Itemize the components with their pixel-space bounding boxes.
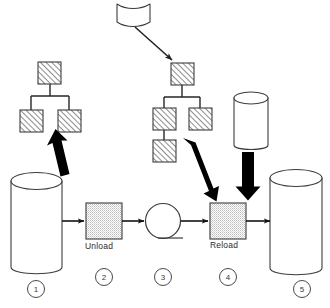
step-badge-4: 4 — [220, 273, 236, 282]
step-badge-2: 2 — [96, 273, 112, 282]
diagram-canvas: Unload Reload 1 2 3 4 5 — [0, 0, 330, 308]
step-badge-1: 1 — [28, 285, 44, 294]
step-badge-3: 3 — [155, 273, 171, 282]
step-badges-svg — [0, 0, 330, 308]
step-badge-5: 5 — [294, 285, 310, 294]
